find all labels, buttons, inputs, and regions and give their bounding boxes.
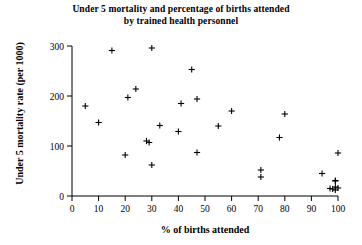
data-point-marker [319,170,325,176]
data-point-marker [194,96,200,102]
data-point-marker [125,94,131,100]
data-point-marker [194,149,200,155]
data-point-marker [335,150,341,156]
data-point-marker [109,47,115,53]
data-point-marker [258,174,264,180]
x-axis-tick-label: 60 [227,204,237,214]
data-point-marker [82,103,88,109]
data-point-marker [122,152,128,158]
x-axis-tick-label: 20 [120,204,130,214]
x-axis-tick-label: 10 [94,204,104,214]
data-point-marker [149,45,155,51]
data-point-marker [282,111,288,117]
y-axis-tick-label: 300 [50,42,65,52]
data-point-marker [157,122,163,128]
y-axis-ticks: 0100200300 [50,42,72,202]
data-point-marker [332,178,338,184]
chart-figure: Under 5 mortality and percentage of birt… [0,0,362,245]
data-point-group [82,45,341,193]
data-point-marker [96,119,102,125]
data-point-marker [258,167,264,173]
x-axis-tick-label: 70 [253,204,263,214]
data-point-marker [133,86,139,92]
data-point-marker [276,134,282,140]
y-axis-tick-label: 0 [59,192,64,202]
scatter-plot-canvas: 0100200300 0102030405060708090100 [0,0,362,245]
x-axis-tick-label: 0 [70,204,75,214]
plot-axes [72,46,338,196]
data-point-marker [215,123,221,129]
x-axis-tick-label: 80 [280,204,290,214]
data-point-marker [149,162,155,168]
x-axis-tick-label: 30 [147,204,157,214]
data-point-marker [229,108,235,114]
x-axis-tick-label: 100 [331,204,346,214]
x-axis-tick-label: 90 [307,204,317,214]
y-axis-tick-label: 100 [50,142,65,152]
x-axis-tick-label: 50 [200,204,210,214]
x-axis-ticks: 0102030405060708090100 [70,196,346,214]
data-point-marker [175,128,181,134]
data-point-marker [189,66,195,72]
x-axis-tick-label: 40 [174,204,184,214]
data-point-marker [178,100,184,106]
y-axis-tick-label: 200 [50,92,65,102]
